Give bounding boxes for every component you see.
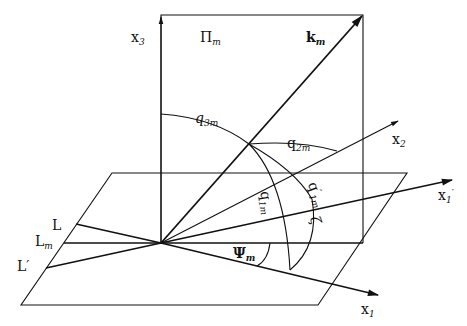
diagram-lines	[0, 0, 467, 326]
label-psi-m: Ψm	[233, 246, 255, 263]
label-l-m: Lm	[35, 234, 53, 251]
line-l	[76, 224, 161, 243]
label-x3: x3	[131, 30, 145, 47]
label-q1m: q1m	[255, 190, 276, 216]
label-q3m: q3m	[195, 111, 218, 128]
label-l-prime: L′	[17, 259, 29, 273]
label-l: L	[52, 218, 61, 232]
label-pi-m: Πm	[200, 30, 221, 47]
label-q2m: q2m	[287, 136, 310, 153]
arc-zeta	[290, 199, 314, 270]
diagram-canvas: x3 Πm km q3m q2m x2 q1m q′1m ζ x1′ L Lm …	[0, 0, 467, 326]
horizontal-plane	[21, 173, 407, 305]
label-k-m: km	[306, 30, 325, 47]
label-x1: x1	[361, 302, 375, 319]
label-x2: x2	[392, 132, 406, 149]
arc-psi-m	[257, 243, 270, 266]
line-l-prime	[46, 243, 161, 268]
label-x1-prime: x1′	[438, 188, 454, 205]
axis-x1	[161, 243, 378, 295]
